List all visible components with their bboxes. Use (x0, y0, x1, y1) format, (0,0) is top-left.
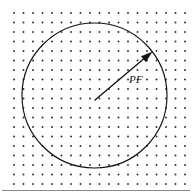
lattice-dot (127, 12, 129, 14)
lattice-dot (99, 79, 101, 81)
lattice-dot (42, 88, 44, 90)
lattice-dot (127, 136, 129, 138)
lattice-dot (61, 12, 63, 14)
lattice-dot (175, 31, 177, 33)
lattice-dot (32, 183, 34, 185)
lattice-dot (175, 69, 177, 71)
lattice-dot (70, 88, 72, 90)
lattice-dot (118, 136, 120, 138)
lattice-dot (32, 69, 34, 71)
lattice-dot (13, 164, 15, 166)
lattice-dot (70, 155, 72, 157)
lattice-dot (156, 88, 158, 90)
lattice-dot (108, 31, 110, 33)
lattice-dot (70, 136, 72, 138)
lattice-dot (108, 98, 110, 100)
lattice-dot (118, 145, 120, 147)
lattice-dot (184, 107, 186, 109)
lattice-dot (51, 164, 53, 166)
lattice-dot (51, 183, 53, 185)
lattice-dot (165, 136, 167, 138)
lattice-dot (89, 174, 91, 176)
lattice-dot (32, 126, 34, 128)
lattice-dot (23, 60, 25, 62)
lattice-dot (99, 183, 101, 185)
lattice-dot (23, 98, 25, 100)
lattice-dot (175, 155, 177, 157)
lattice-dot (70, 50, 72, 52)
lattice-dot (184, 155, 186, 157)
lattice-dot (89, 41, 91, 43)
lattice-dot (42, 136, 44, 138)
lattice-dot (70, 12, 72, 14)
lattice-dot (80, 174, 82, 176)
lattice-dot (32, 50, 34, 52)
lattice-dot (89, 50, 91, 52)
circle-outline (22, 23, 167, 168)
lattice-dot (127, 50, 129, 52)
lattice-dot (127, 60, 129, 62)
lattice-dot (89, 107, 91, 109)
lattice-dot (137, 136, 139, 138)
lattice-dot (13, 145, 15, 147)
lattice-dot (70, 183, 72, 185)
lattice-dot (127, 174, 129, 176)
lattice-dot (32, 117, 34, 119)
lattice-dot (184, 183, 186, 185)
lattice-dot (23, 12, 25, 14)
lattice-dot (118, 126, 120, 128)
lattice-dot (184, 79, 186, 81)
lattice-dot (165, 31, 167, 33)
lattice-dot (156, 145, 158, 147)
lattice-dot (184, 12, 186, 14)
lattice-dot (156, 174, 158, 176)
lattice-dot (89, 98, 91, 100)
lattice-dot (165, 183, 167, 185)
lattice-dot (13, 183, 15, 185)
lattice-dot (137, 164, 139, 166)
lattice-dot (127, 41, 129, 43)
lattice-dot (156, 22, 158, 24)
lattice-dot (137, 174, 139, 176)
lattice-dot (165, 12, 167, 14)
lattice-dot (32, 174, 34, 176)
lattice-dot (146, 117, 148, 119)
lattice-dot (99, 126, 101, 128)
lattice-dot (165, 126, 167, 128)
lattice-dot (146, 155, 148, 157)
lattice-dot (127, 69, 129, 71)
lattice-dot (51, 145, 53, 147)
lattice-dot (23, 174, 25, 176)
figure-canvas: PF (0, 0, 192, 192)
lattice-dot (175, 98, 177, 100)
lattice-dot (137, 41, 139, 43)
lattice-dot (13, 136, 15, 138)
lattice-dot (13, 117, 15, 119)
lattice-dot (137, 126, 139, 128)
lattice-dot (127, 164, 129, 166)
lattice-dot (137, 60, 139, 62)
lattice-dot (13, 174, 15, 176)
lattice-dot (165, 164, 167, 166)
lattice-dot (42, 69, 44, 71)
lattice-dot (13, 98, 15, 100)
lattice-dot (118, 117, 120, 119)
lattice-dot (89, 155, 91, 157)
lattice-dot (13, 12, 15, 14)
lattice-dot (137, 69, 139, 71)
lattice-dot (80, 145, 82, 147)
lattice-dot (146, 98, 148, 100)
lattice-dot (32, 60, 34, 62)
lattice-dot (23, 41, 25, 43)
lattice-dot (156, 136, 158, 138)
lattice-dot (108, 183, 110, 185)
lattice-dot (127, 155, 129, 157)
lattice-dot (80, 107, 82, 109)
lattice-dot (146, 164, 148, 166)
lattice-dot (89, 31, 91, 33)
lattice-dot (13, 31, 15, 33)
lattice-dot (51, 22, 53, 24)
lattice-dot (146, 69, 148, 71)
lattice-dot (13, 155, 15, 157)
lattice-dot (118, 31, 120, 33)
